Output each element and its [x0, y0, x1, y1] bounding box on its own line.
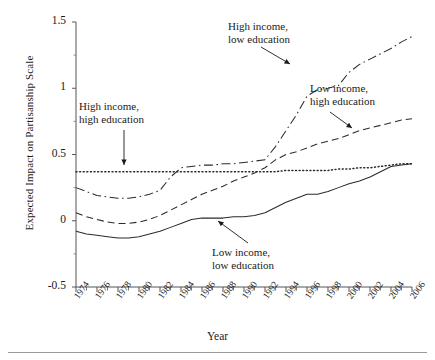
y-axis-label: Expected Impact on Partisanship Scale [23, 18, 35, 268]
y-tick-label: -0.5 [26, 279, 66, 291]
annotation-line-1: Low income, [212, 246, 274, 259]
chart-figure: Expected Impact on Partisanship Scale Ye… [0, 0, 435, 360]
annotation-low-income-high-education: Low income, high education [310, 82, 375, 108]
annotation-line-2: low education [212, 259, 274, 272]
annotation-line-1: High income, [228, 20, 290, 33]
annotation-line-2: high education [79, 113, 144, 126]
y-tick-label: 1 [26, 80, 66, 92]
series-line-3 [76, 164, 412, 238]
plot-area [0, 0, 435, 360]
arrow-low-income-high-education [330, 112, 352, 128]
annotation-line-1: Low income, [310, 82, 375, 95]
x-axis-label: Year [0, 330, 435, 342]
annotation-high-income-high-education: High income, high education [79, 100, 144, 126]
series-line-0 [76, 164, 412, 172]
bottom-rule [8, 352, 427, 353]
arrow-high-income-low-education [261, 47, 290, 64]
annotation-line-2: low education [228, 33, 290, 46]
y-tick-label: 0.5 [26, 147, 66, 159]
y-tick-label: 1.5 [26, 14, 66, 26]
annotation-line-2: high education [310, 95, 375, 108]
annotation-low-income-low-education: Low income, low education [212, 246, 274, 272]
arrow-low-income-low-education [218, 221, 248, 243]
y-tick-label: 0 [26, 213, 66, 225]
annotation-line-1: High income, [79, 100, 144, 113]
arrow-high-income-high-education [121, 130, 126, 165]
annotation-high-income-low-education: High income, low education [228, 20, 290, 46]
